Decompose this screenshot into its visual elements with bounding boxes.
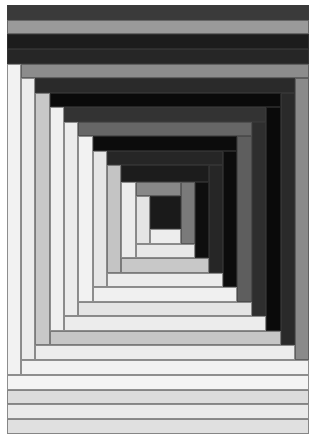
bottom-strip-2: [50, 331, 281, 345]
left-strip-7: [107, 165, 121, 273]
left-strip-6: [93, 151, 107, 287]
left-strip-8: [121, 182, 136, 258]
bottom-band-1: [7, 375, 309, 390]
right-strip-6: [209, 165, 223, 273]
top-strip-8: [136, 182, 181, 196]
top-strip-2: [50, 93, 281, 107]
left-strip-2: [35, 93, 50, 345]
right-strip-5: [223, 151, 237, 287]
left-strip-3: [50, 107, 64, 331]
bottom-strip-0: [21, 360, 309, 375]
right-strip-8: [181, 182, 195, 244]
log-cabin-quilt: [0, 0, 318, 441]
bottom-strip-9: [150, 229, 181, 244]
top-strip-4: [78, 122, 252, 136]
top-band-4: [7, 49, 309, 64]
left-strip-4: [64, 122, 78, 316]
top-band-1: [7, 5, 309, 20]
bottom-strip-4: [78, 302, 252, 316]
bottom-band-3: [7, 404, 309, 419]
bottom-strip-5: [93, 287, 237, 302]
top-strip-0: [21, 64, 309, 78]
bottom-band-2: [7, 390, 309, 404]
right-strip-1: [281, 93, 295, 345]
bottom-strip-8: [136, 244, 195, 258]
right-strip-2: [266, 107, 281, 331]
top-strip-3: [64, 107, 266, 122]
top-strip-6: [107, 151, 223, 165]
top-strip-1: [35, 78, 295, 93]
right-strip-7: [195, 182, 209, 258]
bottom-strip-6: [107, 273, 223, 287]
top-band-2: [7, 20, 309, 34]
bottom-strip-7: [121, 258, 209, 273]
right-strip-4: [237, 136, 252, 302]
right-strip-0: [295, 78, 309, 360]
bottom-band-4: [7, 419, 309, 434]
top-strip-7: [121, 165, 209, 182]
top-strip-5: [93, 136, 237, 151]
left-strip-9: [136, 196, 150, 244]
bottom-strip-3: [64, 316, 266, 331]
left-strip-1: [21, 78, 35, 360]
bottom-strip-1: [35, 345, 295, 360]
left-strip-0: [7, 64, 21, 375]
left-strip-5: [78, 136, 93, 302]
top-band-3: [7, 34, 309, 49]
right-strip-3: [252, 122, 266, 316]
center-square: [150, 196, 181, 229]
